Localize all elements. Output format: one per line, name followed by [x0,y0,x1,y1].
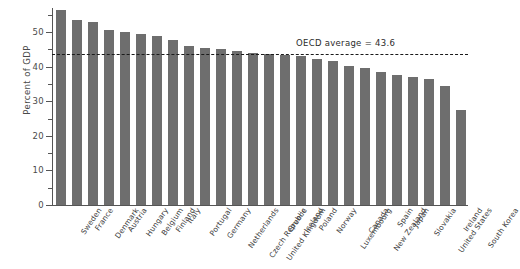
y-tick-label-40: 40 [33,62,44,72]
y-tick-25 [48,119,52,120]
bar [56,10,66,205]
y-tick-20 [46,136,52,137]
bar [360,68,370,205]
y-tick-label-10: 10 [33,165,44,175]
bar [456,110,466,205]
bar [152,36,162,205]
y-tick-50 [46,32,52,33]
bar [328,61,338,205]
y-tick-15 [48,153,52,154]
bar [104,30,114,205]
plot-area: 01020304050 OECD average = 43.6 [52,8,468,205]
bar [168,40,178,205]
bar [184,46,194,205]
y-tick-45 [48,49,52,50]
bar [296,56,306,205]
x-tick-label: Slovakia [432,206,458,238]
bar [280,55,290,205]
bar [376,72,386,205]
bar [408,77,418,205]
y-axis-title: Percent of GDP [22,15,32,145]
oecd-average-line [52,54,468,55]
y-tick-55 [48,15,52,16]
bar [232,51,242,205]
bar [424,79,434,205]
bar [344,66,354,205]
y-tick-label-30: 30 [33,96,44,106]
bar [200,48,210,205]
bar [136,34,146,205]
bar-series [53,8,468,205]
bar [72,20,82,205]
y-tick-35 [48,84,52,85]
bar [248,53,258,205]
y-tick-30 [46,101,52,102]
y-tick-label-20: 20 [33,131,44,141]
bar [88,22,98,205]
bar [312,59,322,205]
y-tick-10 [46,170,52,171]
x-axis-tick-labels: SwedenFranceDenmarkAustriaHungaryBelgium… [52,206,472,269]
bar [440,86,450,205]
oecd-average-label: OECD average = 43.6 [296,38,395,48]
y-tick-label-0: 0 [38,200,44,210]
bar [120,32,130,205]
bar [216,49,226,205]
y-tick-label-50: 50 [33,27,44,37]
y-tick-40 [46,67,52,68]
y-tick-5 [48,188,52,189]
bar [264,54,274,205]
bar [392,75,402,205]
